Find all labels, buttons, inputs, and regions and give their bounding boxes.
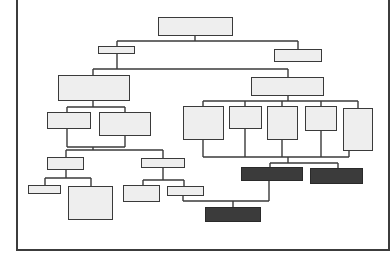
node-dark-b — [310, 168, 363, 184]
node-l5-a — [28, 185, 61, 194]
diagram-canvas — [0, 0, 390, 253]
node-l2-right — [251, 77, 324, 96]
node-root — [158, 17, 233, 36]
node-l1-left — [98, 46, 135, 54]
node-l4-right — [141, 158, 185, 168]
node-l5-d — [167, 186, 204, 196]
node-l5-b — [68, 186, 113, 220]
node-r3-a — [183, 106, 224, 140]
node-l2-left — [58, 75, 130, 101]
node-l3-left-a — [47, 112, 91, 129]
node-r3-d — [305, 106, 337, 131]
node-dark-a — [241, 167, 303, 181]
node-r3-b — [229, 106, 262, 129]
node-l5-c — [123, 185, 160, 202]
node-dark-c — [205, 207, 261, 222]
node-l1-right — [274, 49, 322, 62]
node-l3-left-b — [99, 112, 151, 136]
node-r3-e — [343, 108, 373, 151]
node-l4-left — [47, 157, 84, 170]
node-r3-c — [267, 106, 298, 140]
